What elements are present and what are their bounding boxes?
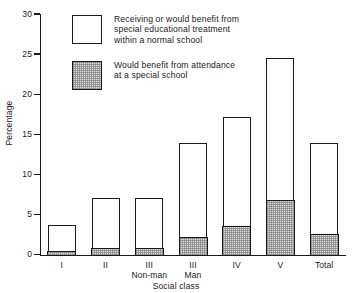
x-tick-label: III [189,260,196,270]
bar-4 [223,117,251,255]
x-tick-label: II [103,260,108,270]
plot-area [40,14,346,255]
x-tick-label: III [146,260,153,270]
y-tick-label: 25 [4,50,32,59]
bar-2 [135,198,163,255]
x-tick-label-group: Total [290,260,352,270]
bar-5 [266,58,294,255]
y-axis-title: Percentage [4,90,14,156]
x-tick-label: IV [233,260,241,270]
bar-segment-special-school [47,251,76,256]
y-tick-label: 10 [4,170,32,179]
legend-label-special-school: Would benefit from attendance at a speci… [114,60,314,81]
bar-segment-special-school [222,226,251,256]
bar-segment-special-school [135,248,164,256]
legend-swatch-shaded [72,61,102,90]
y-tick-label: 5 [4,210,32,219]
bar-chart: 051015202530 Percentage IIIIIINon-manIII… [0,0,352,293]
bar-segment-special-school [179,237,208,255]
x-tick-label: Total [315,260,333,270]
y-tick-label: 0 [4,250,32,259]
x-axis-title: Social class [0,281,352,291]
x-tick-label: I [61,260,63,270]
bar-segment-special-school [91,248,120,255]
x-tick-sublabel: Man [159,270,227,280]
legend-swatch-open [72,15,102,44]
bar-0 [48,225,76,255]
x-tick-label: V [278,260,284,270]
bar-3 [179,143,207,255]
bar-segment-special-school [266,200,295,255]
bar-6 [310,143,338,255]
bar-segment-special-school [310,234,339,256]
bar-1 [92,198,120,255]
y-tick-label: 30 [4,10,32,19]
legend-label-normal-school: Receiving or would benefit from special … [114,14,314,45]
